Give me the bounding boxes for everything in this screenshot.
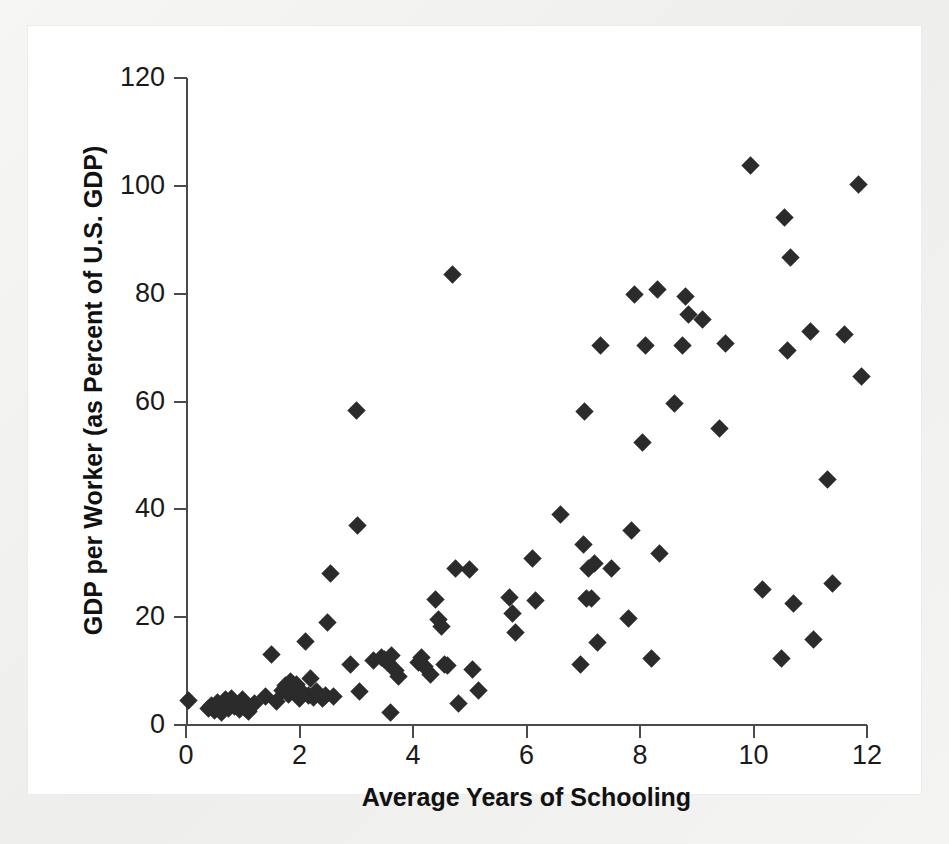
x-axis-tick (412, 725, 414, 738)
x-axis-tick (526, 725, 528, 738)
scatter-point (180, 691, 198, 709)
scatter-point (463, 660, 481, 678)
scatter-point (551, 506, 569, 524)
x-axis-tick-label: 0 (146, 742, 226, 769)
scatter-point (648, 281, 666, 299)
scatter-point (673, 336, 691, 354)
scatter-point (773, 649, 791, 667)
scatter-point (591, 336, 609, 354)
scatter-point (622, 522, 640, 540)
scatter-point (676, 287, 694, 305)
y-axis-tick (174, 616, 187, 618)
x-axis-tick (185, 725, 187, 738)
x-axis-title: Average Years of Schooling (186, 783, 867, 812)
scatter-point (651, 544, 669, 562)
y-axis-tick (174, 185, 187, 187)
scatter-point (716, 335, 734, 353)
x-axis-tick (299, 725, 301, 738)
scatter-point (804, 630, 822, 648)
scatter-point (262, 645, 280, 663)
x-axis-tick-label: 4 (373, 742, 453, 769)
scatter-point (444, 266, 462, 284)
chart-plate: 020406080100120 024681012 Average Years … (28, 26, 921, 794)
y-axis-title: GDP per Worker (as Percent of U.S. GDP) (79, 61, 108, 721)
scatter-point (449, 695, 467, 713)
scatter-point (350, 682, 368, 700)
x-axis-tick (753, 725, 755, 738)
y-axis-tick (174, 401, 187, 403)
y-axis-tick (174, 508, 187, 510)
scatter-point (341, 655, 359, 673)
scatter-point (469, 681, 487, 699)
scatter-point (503, 604, 521, 622)
x-axis-tick-label: 6 (487, 742, 567, 769)
scatter-point (852, 367, 870, 385)
x-axis-tick-label: 12 (827, 742, 907, 769)
scatter-point (619, 610, 637, 628)
scatter-point (835, 325, 853, 343)
scatter-point (636, 336, 654, 354)
scatter-point (781, 248, 799, 266)
scatter-point (741, 157, 759, 175)
scatter-point (710, 420, 728, 438)
y-axis-tick (174, 77, 187, 79)
scatter-point (296, 633, 314, 651)
scatter-point (642, 649, 660, 667)
figure-root: 020406080100120 024681012 Average Years … (0, 0, 949, 844)
scatter-point (753, 580, 771, 598)
scatter-point (381, 703, 399, 721)
scatter-point (500, 589, 518, 607)
scatter-point (426, 590, 444, 608)
scatter-plot-canvas: 020406080100120 024681012 Average Years … (28, 26, 921, 794)
scatter-point (849, 176, 867, 194)
x-axis-tick-label: 10 (714, 742, 794, 769)
scatter-point (665, 394, 683, 412)
scatter-point (801, 322, 819, 340)
scatter-point (824, 574, 842, 592)
scatter-point (818, 470, 836, 488)
scatter-point (602, 559, 620, 577)
scatter-point (319, 613, 337, 631)
scatter-point (571, 655, 589, 673)
scatter-point (588, 633, 606, 651)
scatter-point (347, 401, 365, 419)
x-axis-tick-label: 8 (600, 742, 680, 769)
scatter-point (575, 402, 593, 420)
scatter-point (574, 536, 592, 554)
y-axis-tick (174, 293, 187, 295)
scatter-point (625, 285, 643, 303)
scatter-point (526, 591, 544, 609)
scatter-point (776, 208, 794, 226)
scatter-point (778, 342, 796, 360)
scatter-point (506, 624, 524, 642)
scatter-point (461, 560, 479, 578)
scatter-point (784, 594, 802, 612)
scatter-point (523, 550, 541, 568)
scatter-point (322, 564, 340, 582)
x-axis-tick (639, 725, 641, 738)
scatter-point (348, 516, 366, 534)
x-axis-tick (866, 725, 868, 738)
scatter-point (634, 433, 652, 451)
x-axis-tick-label: 2 (260, 742, 340, 769)
